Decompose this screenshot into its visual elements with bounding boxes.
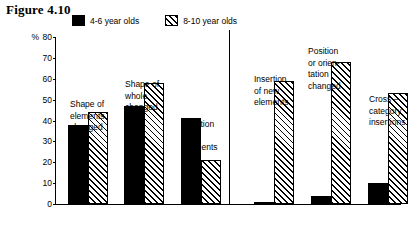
group-caption-1: Shape of whole changed xyxy=(125,79,159,114)
group-caption-3: Insertion of new elements xyxy=(254,74,289,109)
legend-swatch-solid xyxy=(72,15,85,26)
legend-label-8-10: 8-10 year olds xyxy=(183,16,237,26)
y-axis-label: 20 xyxy=(43,158,52,167)
bar-4-6-4 xyxy=(311,196,331,204)
legend-item-4-6: 4-6 year olds xyxy=(72,15,139,26)
legend-swatch-hatch xyxy=(165,15,178,26)
y-axis-label: 40 xyxy=(43,116,52,125)
y-axis-tick xyxy=(53,141,56,142)
y-axis-label: 10 xyxy=(43,179,52,188)
chart-legend: 4-6 year olds 8-10 year olds xyxy=(72,15,237,26)
panel-divider xyxy=(229,30,230,204)
figure-title: Figure 4.10 xyxy=(6,2,71,18)
group-caption-4: Position or orien- tation changed xyxy=(308,46,341,92)
y-axis-tick xyxy=(53,183,56,184)
bar-4-6-1 xyxy=(124,106,144,204)
bar-4-6-0 xyxy=(68,125,88,204)
y-axis-label: 60 xyxy=(43,75,52,84)
y-axis-label: 30 xyxy=(43,137,52,146)
y-axis-label: 70 xyxy=(43,54,52,63)
y-axis-label: 80 xyxy=(43,33,52,42)
y-axis-tick xyxy=(53,37,56,38)
axis-unit-label: % xyxy=(31,32,39,42)
legend-label-4-6: 4-6 year olds xyxy=(90,16,139,26)
group-caption-2: Deletion of elements xyxy=(183,119,218,154)
y-axis-tick xyxy=(53,100,56,101)
bar-4-6-5 xyxy=(368,183,388,204)
y-axis-label: 50 xyxy=(43,95,52,104)
y-axis-tick xyxy=(53,121,56,122)
bar-8-10-2 xyxy=(201,160,221,204)
y-axis-tick xyxy=(53,58,56,59)
legend-item-8-10: 8-10 year olds xyxy=(165,15,237,26)
group-caption-5: Cross – category insertions xyxy=(369,94,405,129)
plot-area: % 80706050403020100Shape of elements cha… xyxy=(55,37,401,205)
figure-panel: Figure 4.10 4-6 year olds 8-10 year olds… xyxy=(0,0,410,227)
group-caption-0: Shape of elements changed xyxy=(70,99,105,134)
y-axis-tick xyxy=(53,79,56,80)
y-axis-label: 0 xyxy=(47,200,52,209)
y-axis-tick xyxy=(53,162,56,163)
y-axis-tick xyxy=(53,204,56,205)
bar-4-6-3 xyxy=(254,202,274,204)
